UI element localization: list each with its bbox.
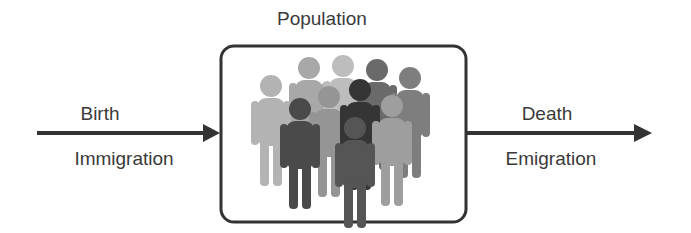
inflow-immigration-label: Immigration (74, 148, 173, 170)
outflow-arrow (466, 124, 652, 142)
outflow-emigration-label: Emigration (506, 148, 597, 170)
inflow-arrow (37, 124, 220, 142)
inflow-birth-label: Birth (80, 103, 119, 125)
outflow-death-label: Death (522, 103, 573, 125)
population-title: Population (277, 8, 367, 30)
